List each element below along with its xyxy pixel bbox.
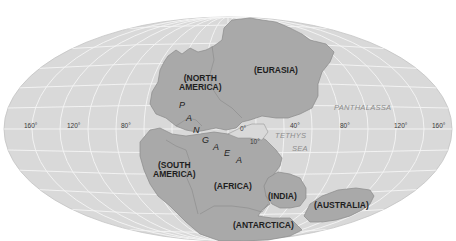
longitude-label-e160: 160°	[432, 123, 445, 130]
pangaea-letter-p: P	[179, 101, 185, 110]
pangaea-letter-a1: A	[186, 114, 192, 123]
africa-label: (AFRICA)	[214, 182, 252, 191]
panthalassa-label: PANTHALASSA	[334, 104, 391, 112]
north-america-label-line2: AMERICA)	[179, 83, 222, 92]
longitude-label-e80: 80°	[340, 123, 350, 130]
longitude-label-e40: 40°	[290, 123, 300, 130]
map-canvas	[0, 0, 456, 241]
eurasia-label: (EURASIA)	[254, 66, 298, 75]
longitude-label-w160: 160°	[24, 123, 37, 130]
pangaea-letter-a3: A	[236, 156, 242, 165]
south-america-label: (SOUTH AMERICA)	[153, 161, 196, 178]
india-label: (INDIA)	[268, 192, 297, 201]
south-america-label-line2: AMERICA)	[153, 170, 196, 179]
tethys-label-line1: TETHYS	[275, 132, 306, 140]
pangaea-letter-g: G	[202, 136, 209, 145]
pangaea-letter-n: N	[193, 126, 200, 135]
australia-label: (AUSTRALIA)	[314, 201, 369, 210]
pangaea-letter-e: E	[224, 149, 230, 158]
longitude-label-ten: 10°	[250, 139, 260, 146]
tethys-label-line2: SEA	[292, 145, 308, 153]
longitude-label-zero: 0°	[240, 126, 246, 133]
longitude-label-w120: 120°	[67, 123, 80, 130]
north-america-label: (NORTH AMERICA)	[179, 74, 222, 91]
longitude-label-w80: 80°	[121, 123, 131, 130]
antarctica-label: (ANTARCTICA)	[233, 221, 294, 230]
pangaea-letter-a2: A	[213, 143, 219, 152]
pangaea-map: (NORTH AMERICA) (EURASIA) (SOUTH AMERICA…	[0, 0, 456, 241]
longitude-label-e120: 120°	[394, 123, 407, 130]
